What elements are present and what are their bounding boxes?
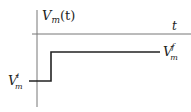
y-axis-label: Vm(t) <box>42 8 75 25</box>
initial-value-label: Vim <box>8 71 23 91</box>
x-axis-label: t <box>172 19 177 33</box>
step-signal <box>29 52 160 81</box>
step-function-diagram: Vm(t) t Vim Vfm <box>0 0 191 112</box>
final-value-label: Vfm <box>163 42 178 62</box>
